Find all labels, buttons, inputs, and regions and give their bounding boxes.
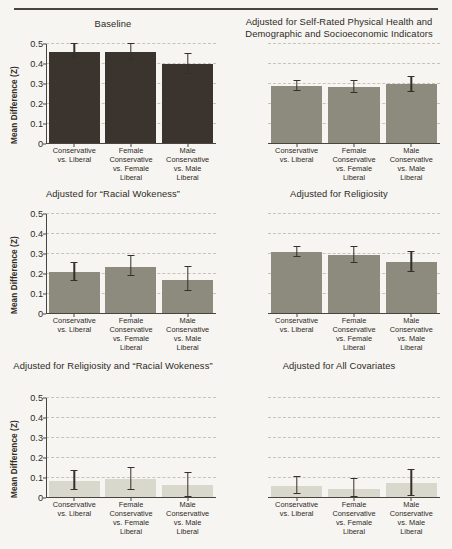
x-axis-label-line: vs. Female (326, 164, 381, 173)
error-bar-cap-bottom (71, 57, 78, 58)
x-axis-label-line: Female (326, 316, 381, 325)
panel-title: Adjusted for “Racial Wokeness” (0, 188, 226, 200)
error-bar-cap-top (127, 467, 134, 468)
x-axis-label-line: Male (160, 316, 214, 325)
figure-top-rule (14, 8, 438, 10)
error-bar-cap-bottom (184, 290, 191, 291)
x-axis-label: FemaleConservativevs. FemaleLiberal (326, 146, 381, 182)
x-axis-labels: Conservativevs. LiberalFemaleConservativ… (268, 500, 440, 536)
x-axis-label-line: Liberal (160, 173, 214, 182)
x-axis-label-line: Male (160, 500, 214, 509)
x-axis-label-line: Conservative (160, 155, 214, 164)
x-axis-label-line: Conservative (47, 316, 101, 325)
y-axis-title: Mean Difference (Z) (10, 236, 19, 314)
x-axis-label-line: Conservative (269, 316, 324, 325)
x-axis-label: Conservativevs. Liberal (47, 500, 101, 518)
y-axis-title: Mean Difference (Z) (10, 420, 19, 498)
error-bar-cap-top (127, 255, 134, 256)
x-axis-label-line: vs. Female (104, 164, 158, 173)
error-bar-cap-top (293, 246, 300, 247)
x-axis-label: FemaleConservativevs. FemaleLiberal (104, 146, 158, 182)
x-axis-label-line: Conservative (269, 146, 324, 155)
error-bar-cap-top (71, 43, 78, 44)
x-axis-label: Conservativevs. Liberal (47, 146, 101, 164)
bar-group (162, 214, 213, 314)
error-bar-cap-top (350, 478, 357, 479)
error-bar-cap-top (127, 43, 134, 44)
chart-panel-bottom-left: Adjusted for Religiosity and “Racial Wok… (0, 352, 226, 549)
x-axis-label-line: Liberal (326, 173, 381, 182)
x-axis-label-line: Conservative (326, 155, 381, 164)
error-bar-cap-top (71, 470, 78, 471)
error-bar-cap-bottom (184, 73, 191, 74)
x-axis-label-line: vs. Female (104, 334, 158, 343)
bar-group (271, 44, 323, 144)
x-axis-label-line: Liberal (160, 527, 214, 536)
bar-series (46, 214, 216, 314)
figure-panel-grid: Baseline0.50.40.30.20.10Mean Difference … (0, 0, 452, 549)
x-axis-label: FemaleConservativevs. FemaleLiberal (104, 500, 158, 536)
bar-group (386, 214, 438, 314)
bar-group (386, 44, 438, 144)
error-bar (74, 471, 75, 490)
x-axis-label-line: Male (384, 500, 439, 509)
error-bar (411, 252, 412, 272)
error-bar-cap-bottom (350, 262, 357, 263)
panel-title: Adjusted for All Covariates (226, 360, 452, 372)
plot-area: 0.50.40.30.20.10Mean Difference (Z) (46, 44, 216, 144)
x-axis-label-line: Conservative (384, 509, 439, 518)
x-axis-label-line: Conservative (384, 325, 439, 334)
error-bar-cap-bottom (408, 495, 415, 496)
x-axis-label-line: Conservative (104, 509, 158, 518)
x-axis-label: MaleConservativevs. MaleLiberal (160, 146, 214, 182)
error-bar-cap-top (408, 469, 415, 470)
chart-panel-middle-right: Adjusted for ReligiosityConservativevs. … (226, 182, 452, 352)
x-axis-label: MaleConservativevs. MaleLiberal (384, 146, 439, 182)
error-bar-cap-top (184, 53, 191, 54)
bar-series (46, 44, 216, 144)
x-axis-label-line: vs. Male (384, 334, 439, 343)
error-bar-cap-bottom (408, 91, 415, 92)
x-axis-label: Conservativevs. Liberal (47, 316, 101, 334)
bar-group (105, 214, 156, 314)
panel-title: Adjusted for Religiosity (226, 188, 452, 200)
error-bar-cap-top (350, 80, 357, 81)
x-axis-label: MaleConservativevs. MaleLiberal (384, 500, 439, 536)
x-axis-label-line: Conservative (326, 509, 381, 518)
x-axis-label-line: vs. Liberal (47, 155, 101, 164)
x-axis-label-line: Conservative (160, 509, 214, 518)
error-bar-cap-bottom (350, 92, 357, 93)
error-bar (187, 54, 188, 74)
panel-title: Adjusted for Religiosity and “Racial Wok… (0, 360, 226, 372)
error-bar-cap-bottom (408, 271, 415, 272)
error-bar-cap-bottom (293, 493, 300, 494)
x-axis-label-line: vs. Male (384, 164, 439, 173)
x-axis-label-line: vs. Female (326, 334, 381, 343)
x-axis-label-line: vs. Liberal (269, 155, 324, 164)
error-bar (130, 44, 131, 60)
x-axis-label: FemaleConservativevs. FemaleLiberal (326, 500, 381, 536)
x-axis-label-line: Female (326, 500, 381, 509)
x-axis-label-line: vs. Liberal (47, 325, 101, 334)
error-bar-cap-top (408, 251, 415, 252)
bar-group (162, 398, 213, 498)
x-axis-label: Conservativevs. Liberal (269, 500, 324, 518)
bar-series (268, 214, 440, 314)
x-axis-label-line: vs. Male (160, 518, 214, 527)
x-axis-labels: Conservativevs. LiberalFemaleConservativ… (46, 146, 216, 182)
bar-group (49, 214, 100, 314)
error-bar (353, 479, 354, 497)
error-bar (130, 256, 131, 276)
x-axis-label-line: vs. Male (384, 518, 439, 527)
x-axis-label-line: Liberal (326, 343, 381, 352)
x-axis-label-line: Conservative (47, 146, 101, 155)
x-axis-label-line: vs. Liberal (269, 325, 324, 334)
bar (271, 252, 323, 314)
bar-group (49, 398, 100, 498)
bar-group (271, 214, 323, 314)
x-axis-label-line: Male (384, 316, 439, 325)
x-axis-label-line: Female (104, 146, 158, 155)
error-bar (74, 263, 75, 281)
bar-group (328, 214, 380, 314)
bar-group (271, 398, 323, 498)
